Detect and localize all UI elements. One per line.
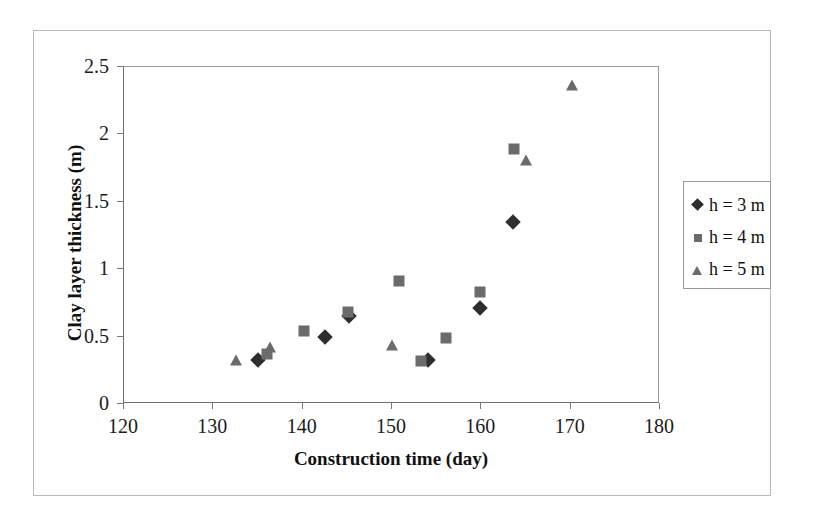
- x-tick-mark: [212, 403, 213, 409]
- y-tick-mark: [117, 133, 123, 134]
- data-point-square: [509, 144, 520, 155]
- x-tick-mark: [480, 403, 481, 409]
- y-tick-mark: [117, 66, 123, 67]
- x-tick-mark: [659, 403, 660, 409]
- data-point-triangle: [230, 354, 242, 365]
- data-point-triangle: [520, 155, 532, 166]
- data-point-square: [415, 355, 426, 366]
- x-tick-mark: [123, 403, 124, 409]
- data-point-square: [394, 276, 405, 287]
- legend-entry[interactable]: h = 4 m: [692, 221, 764, 253]
- square-marker-icon: [692, 231, 704, 243]
- x-tick-label: 160: [465, 415, 495, 438]
- legend: h = 3 mh = 4 mh = 5 m: [683, 181, 771, 289]
- data-point-square: [298, 326, 309, 337]
- legend-label: h = 4 m: [709, 227, 765, 248]
- x-tick-label: 120: [108, 415, 138, 438]
- data-point-triangle: [264, 342, 276, 353]
- y-tick-mark: [117, 336, 123, 337]
- x-tick-label: 170: [555, 415, 585, 438]
- y-tick-label: 0: [57, 392, 109, 415]
- y-tick-mark: [117, 201, 123, 202]
- x-tick-label: 180: [644, 415, 674, 438]
- triangle-marker-icon: [692, 263, 704, 275]
- legend-label: h = 3 m: [709, 195, 765, 216]
- y-axis-label: Clay layer thickness (m): [64, 93, 86, 393]
- x-tick-mark: [391, 403, 392, 409]
- data-point-triangle: [566, 79, 578, 90]
- x-tick-mark: [570, 403, 571, 409]
- x-tick-label: 150: [376, 415, 406, 438]
- data-point-square: [343, 307, 354, 318]
- legend-label: h = 5 m: [709, 259, 765, 280]
- diamond-marker-icon: [692, 199, 704, 211]
- data-point-square: [474, 287, 485, 298]
- data-point-square: [441, 332, 452, 343]
- legend-entry[interactable]: h = 3 m: [692, 189, 764, 221]
- plot-area: [123, 66, 659, 403]
- x-tick-label: 130: [197, 415, 227, 438]
- y-tick-label: 2.5: [57, 55, 109, 78]
- data-point-diamond: [317, 329, 333, 345]
- legend-entry[interactable]: h = 5 m: [692, 253, 764, 285]
- figure-root: 120130140150160170180 00.511.522.5 Const…: [0, 0, 817, 526]
- y-tick-mark: [117, 268, 123, 269]
- x-tick-label: 140: [287, 415, 317, 438]
- data-points-layer: [124, 67, 658, 402]
- x-axis-label: Construction time (day): [123, 448, 659, 470]
- y-tick-mark: [117, 403, 123, 404]
- data-point-diamond: [505, 214, 521, 230]
- data-point-triangle: [386, 339, 398, 350]
- data-point-diamond: [473, 301, 489, 317]
- x-tick-mark: [302, 403, 303, 409]
